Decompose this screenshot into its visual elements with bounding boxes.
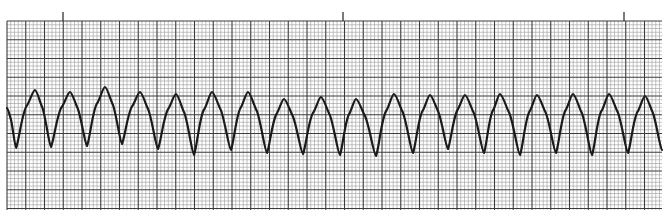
time-marker-ticks	[63, 12, 624, 21]
ecg-rhythm-strip	[0, 0, 668, 220]
ecg-trace-line	[7, 87, 662, 156]
